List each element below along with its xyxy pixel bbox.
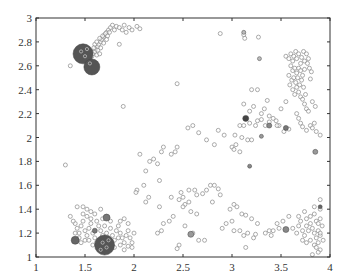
data-point bbox=[220, 226, 224, 230]
data-point bbox=[118, 231, 122, 235]
data-point bbox=[242, 124, 246, 128]
large-data-point bbox=[257, 57, 261, 61]
data-point bbox=[81, 212, 85, 216]
data-point bbox=[267, 114, 271, 118]
large-data-point bbox=[242, 30, 246, 34]
data-point bbox=[120, 236, 124, 240]
data-point bbox=[124, 30, 128, 34]
data-point bbox=[205, 138, 209, 142]
data-point bbox=[108, 226, 112, 230]
data-point bbox=[263, 231, 267, 235]
data-point bbox=[277, 226, 281, 230]
large-data-point bbox=[313, 149, 318, 154]
data-point bbox=[230, 219, 234, 223]
data-point bbox=[105, 38, 109, 42]
data-point bbox=[224, 222, 228, 226]
data-point bbox=[134, 190, 138, 194]
data-point bbox=[144, 200, 148, 204]
data-point bbox=[240, 136, 244, 140]
scatter-plot: 11.522.533.54 11.21.41.61.822.22.42.62.8… bbox=[0, 0, 347, 279]
data-point bbox=[183, 224, 187, 228]
data-point bbox=[218, 32, 222, 36]
data-point bbox=[287, 57, 291, 61]
data-point bbox=[318, 231, 322, 235]
data-point bbox=[301, 229, 305, 233]
data-point bbox=[195, 193, 199, 197]
data-point bbox=[310, 100, 314, 104]
data-point bbox=[271, 116, 275, 120]
data-point bbox=[308, 222, 312, 226]
data-point bbox=[195, 212, 199, 216]
y-tick-label: 1.2 bbox=[18, 227, 32, 239]
data-point bbox=[187, 188, 191, 192]
data-point bbox=[91, 243, 95, 247]
data-point bbox=[291, 59, 295, 63]
data-point bbox=[173, 150, 177, 154]
data-point bbox=[228, 207, 232, 211]
data-point bbox=[181, 195, 185, 199]
data-point bbox=[246, 231, 250, 235]
data-point bbox=[238, 124, 242, 128]
data-point bbox=[85, 233, 89, 237]
large-data-point bbox=[259, 134, 263, 138]
data-point bbox=[191, 124, 195, 128]
data-point bbox=[299, 61, 303, 65]
data-point bbox=[242, 233, 246, 237]
data-point bbox=[171, 214, 175, 218]
data-point bbox=[312, 231, 316, 235]
data-point bbox=[87, 238, 91, 242]
data-point bbox=[95, 219, 99, 223]
data-point bbox=[235, 205, 239, 209]
data-point bbox=[275, 124, 279, 128]
data-point bbox=[122, 217, 126, 221]
data-point bbox=[99, 207, 103, 211]
data-point bbox=[314, 236, 318, 240]
data-point bbox=[254, 232, 258, 236]
data-point bbox=[269, 233, 273, 237]
data-point bbox=[293, 92, 297, 96]
data-point bbox=[296, 76, 300, 80]
y-tick-label: 1 bbox=[27, 251, 33, 263]
data-point bbox=[189, 210, 193, 214]
data-point bbox=[218, 193, 222, 197]
y-tick-label: 1.4 bbox=[18, 203, 32, 215]
data-point bbox=[255, 119, 259, 123]
data-point bbox=[316, 222, 320, 226]
data-point bbox=[255, 88, 259, 92]
data-point bbox=[256, 35, 260, 39]
data-point bbox=[68, 64, 72, 68]
y-tick-label: 1.6 bbox=[18, 179, 32, 191]
data-point bbox=[216, 128, 220, 132]
data-point bbox=[130, 245, 134, 249]
large-data-point bbox=[188, 231, 194, 237]
data-point bbox=[159, 150, 163, 154]
data-point bbox=[197, 131, 201, 135]
data-point bbox=[297, 116, 301, 120]
data-point bbox=[79, 224, 83, 228]
data-point bbox=[126, 244, 130, 248]
data-point bbox=[303, 210, 307, 214]
data-point bbox=[313, 104, 317, 108]
data-point bbox=[295, 231, 299, 235]
data-point bbox=[318, 133, 322, 137]
data-point bbox=[246, 138, 250, 142]
y-tick-label: 2.4 bbox=[18, 84, 32, 96]
data-point bbox=[124, 233, 128, 237]
data-point bbox=[279, 107, 283, 111]
data-point bbox=[275, 222, 279, 226]
data-point bbox=[297, 52, 301, 56]
data-point bbox=[304, 52, 308, 56]
data-point bbox=[81, 205, 85, 209]
data-point bbox=[248, 121, 252, 125]
data-point bbox=[73, 231, 77, 235]
data-point bbox=[316, 250, 320, 254]
data-point bbox=[299, 219, 303, 223]
data-point bbox=[292, 76, 296, 80]
data-point bbox=[68, 214, 72, 218]
data-point bbox=[130, 241, 134, 245]
data-point bbox=[312, 205, 316, 209]
data-point bbox=[105, 231, 109, 235]
data-point bbox=[267, 229, 271, 233]
data-point bbox=[312, 121, 316, 125]
data-point bbox=[222, 133, 226, 137]
